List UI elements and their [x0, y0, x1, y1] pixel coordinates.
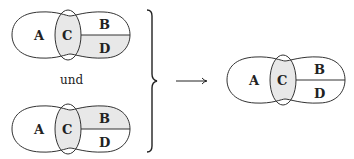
label-a: A	[33, 28, 45, 43]
venn-shape-top: A C B D	[12, 10, 138, 65]
label-d: D	[99, 135, 110, 150]
diagram-canvas: A C B D und A C B D A C B D	[0, 0, 354, 159]
venn-shape-result: A C B D	[227, 55, 345, 105]
label-a: A	[33, 122, 45, 137]
label-d: D	[314, 86, 325, 101]
label-d: D	[99, 41, 110, 56]
connector-word: und	[60, 73, 83, 87]
venn-shape-bottom: A C B D	[12, 99, 138, 154]
right-curly-brace-icon	[147, 10, 157, 152]
label-b: B	[99, 111, 110, 126]
label-b: B	[99, 17, 110, 32]
label-c: C	[277, 73, 287, 88]
label-a: A	[248, 73, 260, 88]
label-b: B	[314, 62, 325, 77]
label-c: C	[62, 122, 72, 137]
right-arrow-icon	[176, 78, 207, 84]
label-c: C	[62, 28, 72, 43]
